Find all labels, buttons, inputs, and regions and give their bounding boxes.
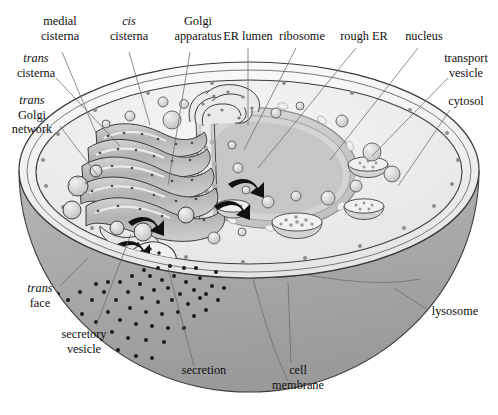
transport-vesicle bbox=[242, 186, 250, 194]
label-line: cisterna bbox=[41, 29, 80, 43]
label-transport-vesicle: transportvesicle bbox=[444, 51, 488, 80]
label-secretory-vesicle: secretoryvesicle bbox=[61, 327, 107, 356]
label-line: network bbox=[12, 122, 53, 136]
label-line: cytosol bbox=[448, 94, 484, 108]
label-cis-cisterna: ciscisterna bbox=[110, 14, 149, 43]
label-cytosol: cytosol bbox=[448, 94, 484, 108]
label-line: secretion bbox=[182, 363, 226, 377]
label-line: cell bbox=[289, 363, 307, 377]
transport-vesicle bbox=[233, 163, 243, 173]
label-line: lysosome bbox=[432, 304, 479, 318]
transport-vesicle bbox=[291, 191, 301, 201]
label-line: cisterna bbox=[110, 29, 149, 43]
transport-vesicle bbox=[102, 120, 110, 128]
transport-vesicle bbox=[228, 141, 236, 149]
transport-vesicle bbox=[163, 111, 181, 129]
transport-vesicle bbox=[158, 97, 168, 107]
label-rough-er: rough ER bbox=[340, 29, 388, 43]
label-golgi-apparatus: Golgiapparatus bbox=[174, 14, 221, 43]
lysosome bbox=[344, 199, 384, 220]
label-line: trans bbox=[19, 93, 44, 107]
golgi-apparatus bbox=[80, 124, 225, 242]
figure-canvas: medialcisternaciscisternaGolgiapparatusE… bbox=[0, 0, 498, 415]
transport-vesicle bbox=[125, 111, 135, 121]
label-line: vesicle bbox=[67, 342, 102, 356]
label-lysosome: lysosome bbox=[432, 304, 479, 318]
lysosome bbox=[272, 213, 322, 239]
label-trans-golgi-network: transGolginetwork bbox=[12, 93, 53, 136]
label-line: medial bbox=[43, 14, 77, 28]
tgn-bud bbox=[134, 223, 152, 241]
label-trans-face: transface bbox=[27, 281, 52, 310]
label-line: trans bbox=[23, 51, 48, 65]
label-line: ER lumen bbox=[223, 29, 273, 43]
secretory-vesicle bbox=[178, 207, 194, 223]
label-ribosome: ribosome bbox=[279, 29, 325, 43]
cell-diagram: medialcisternaciscisternaGolgiapparatusE… bbox=[0, 0, 498, 415]
label-nucleus: nucleus bbox=[405, 29, 443, 43]
transport-vesicle bbox=[350, 180, 362, 192]
transport-vesicle bbox=[321, 191, 335, 205]
label-medial-cisterna: medialcisterna bbox=[41, 14, 80, 43]
transport-vesicle bbox=[296, 102, 304, 110]
label-line: Golgi bbox=[18, 108, 47, 122]
label-line: trans bbox=[27, 281, 52, 295]
label-line: apparatus bbox=[174, 29, 221, 43]
label-line: vesicle bbox=[449, 66, 484, 80]
label-line: rough ER bbox=[340, 29, 388, 43]
secretory-vesicle bbox=[63, 201, 81, 219]
label-line: membrane bbox=[272, 378, 324, 392]
label-line: Golgi bbox=[184, 14, 213, 28]
transport-vesicle bbox=[384, 166, 400, 182]
transport-vesicle bbox=[363, 143, 381, 161]
label-line: ribosome bbox=[279, 29, 325, 43]
transport-vesicle bbox=[208, 232, 220, 244]
label-line: face bbox=[30, 296, 51, 310]
label-er-lumen: ER lumen bbox=[223, 29, 273, 43]
transport-vesicle bbox=[271, 108, 281, 118]
tgn-bud-2 bbox=[110, 221, 124, 235]
label-line: nucleus bbox=[405, 29, 443, 43]
label-line: cisterna bbox=[17, 66, 56, 80]
label-line: cis bbox=[122, 14, 136, 28]
label-line: transport bbox=[444, 51, 488, 65]
label-secretion: secretion bbox=[182, 363, 226, 377]
label-line: secretory bbox=[61, 327, 107, 341]
transport-vesicle bbox=[238, 228, 246, 236]
label-trans-cisterna: transcisterna bbox=[17, 51, 56, 80]
transport-vesicle bbox=[336, 115, 348, 127]
secretory-vesicle bbox=[90, 165, 102, 177]
